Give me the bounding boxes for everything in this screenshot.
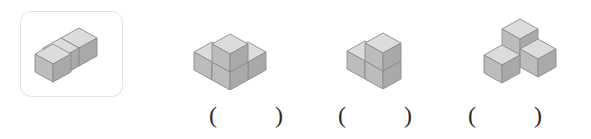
open-paren: ( bbox=[209, 103, 217, 127]
reference-cube-svg bbox=[33, 26, 113, 84]
close-paren: ) bbox=[275, 103, 283, 127]
option-3-cube-figure bbox=[480, 11, 572, 91]
close-paren: ) bbox=[404, 103, 412, 127]
reference-cube-figure bbox=[33, 26, 113, 84]
answer-slot-option-1[interactable]: ( ) bbox=[209, 100, 283, 130]
option-1-cube-figure bbox=[190, 14, 290, 90]
option-1-cube-svg bbox=[190, 14, 290, 90]
open-paren: ( bbox=[338, 103, 346, 127]
answer-slot-option-3[interactable]: ( ) bbox=[468, 100, 542, 130]
open-paren: ( bbox=[468, 103, 476, 127]
option-2-cube-figure bbox=[345, 17, 425, 89]
close-paren: ) bbox=[534, 103, 542, 127]
option-3-cube-svg bbox=[480, 11, 572, 91]
answer-slot-option-2[interactable]: ( ) bbox=[338, 100, 412, 130]
option-2-cube-svg bbox=[345, 17, 425, 89]
worksheet-page: ( ) ( ) ( ) bbox=[0, 0, 591, 139]
